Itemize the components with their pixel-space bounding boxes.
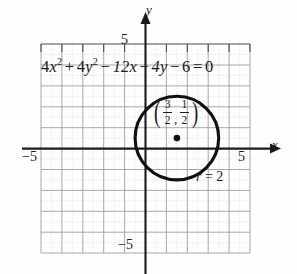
center-coordinate-label: ( 3 2 , 1 2 ) xyxy=(152,97,200,127)
x-axis-label: x xyxy=(272,138,278,151)
center-x-fraction: 3 2 xyxy=(162,98,173,125)
center-open-paren: ( xyxy=(154,97,160,127)
center-x-denominator: 2 xyxy=(164,114,172,126)
equation-constant: 6 xyxy=(182,57,190,76)
y-axis-tick-negative-5: −5 xyxy=(118,238,133,252)
equation-plus: + xyxy=(62,57,77,76)
equation-term-12x: 12x xyxy=(113,57,137,76)
center-point-dot xyxy=(174,135,181,142)
equation-coef-y2: 4 xyxy=(77,57,85,76)
center-y-fraction: 1 2 xyxy=(179,98,190,125)
y-axis-label: y xyxy=(146,3,152,16)
equation-annotation: 4x2+4y2−12x−4y−6=0 xyxy=(41,57,214,75)
center-x-numerator: 3 xyxy=(164,98,172,110)
figure-canvas: 4x2+4y2−12x−4y−6=0 ( 3 2 , 1 2 ) r = 2 5… xyxy=(0,0,297,274)
radius-value: 2 xyxy=(216,169,223,184)
radius-symbol: r xyxy=(196,169,201,184)
equation-var-x: x xyxy=(49,57,57,76)
equation-term-4y: 4y xyxy=(152,57,168,76)
graph-svg xyxy=(0,0,297,274)
y-axis xyxy=(141,12,151,274)
x-axis-tick-negative-5: −5 xyxy=(22,150,37,164)
center-y-denominator: 2 xyxy=(180,114,188,126)
y-axis-tick-5: 5 xyxy=(121,33,128,47)
equation-minus-2: − xyxy=(137,57,152,76)
center-y-numerator: 1 xyxy=(180,98,188,110)
x-axis-tick-5: 5 xyxy=(238,150,245,164)
equation-var-y: y xyxy=(85,57,93,76)
equation-minus-1: − xyxy=(98,57,113,76)
equation-equals: = xyxy=(191,57,206,76)
equation-rhs: 0 xyxy=(205,57,213,76)
center-x-fraction-bar xyxy=(163,112,172,113)
radius-equals: = xyxy=(205,169,213,184)
equation-minus-3: − xyxy=(168,57,183,76)
center-close-paren: ) xyxy=(192,97,198,127)
center-y-fraction-bar xyxy=(180,112,189,113)
radius-label: r = 2 xyxy=(196,170,223,184)
